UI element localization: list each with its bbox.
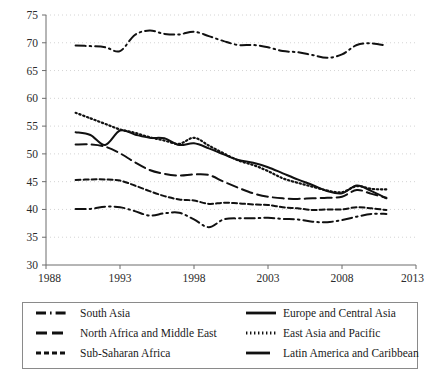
y-tick-label: 70 xyxy=(27,37,39,49)
legend-label: Latin America and Caribbean xyxy=(283,347,419,359)
legend-label: Europe and Central Asia xyxy=(283,307,396,320)
x-tick-label: 1993 xyxy=(109,272,132,284)
legend-label: Sub-Saharan Africa xyxy=(80,347,170,359)
legend-label: South Asia xyxy=(80,307,130,319)
x-tick-label: 2013 xyxy=(401,272,424,284)
y-tick-label: 35 xyxy=(27,231,39,243)
y-tick-label: 40 xyxy=(27,203,39,215)
x-tick-label: 1998 xyxy=(183,272,206,284)
x-tick-label: 1988 xyxy=(38,272,61,284)
chart-figure: 30354045505560657075 1988199319982003200… xyxy=(0,0,438,377)
line-chart: 30354045505560657075 1988199319982003200… xyxy=(0,0,438,377)
y-tick-label: 75 xyxy=(27,9,39,21)
y-tick-label: 30 xyxy=(27,259,39,271)
x-tick-label: 2008 xyxy=(331,272,354,284)
legend-label: East Asia and Pacific xyxy=(283,327,380,339)
legend-label: North Africa and Middle East xyxy=(80,327,217,339)
x-tick-label: 2003 xyxy=(257,272,280,284)
y-tick-label: 55 xyxy=(27,120,39,132)
y-tick-label: 50 xyxy=(27,148,39,160)
y-tick-label: 60 xyxy=(27,92,39,104)
y-tick-label: 65 xyxy=(27,65,39,77)
y-tick-label: 45 xyxy=(27,176,39,188)
chart-legend: South AsiaEurope and Central AsiaNorth A… xyxy=(23,303,419,369)
